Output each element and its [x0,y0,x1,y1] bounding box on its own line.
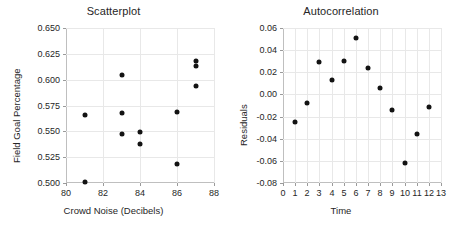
data-point [305,101,310,106]
x-tick-label: 5 [341,188,346,198]
y-tick-mark [63,131,66,132]
y-tick-label: 0.04 [259,45,277,55]
x-tick-label: 13 [436,188,446,198]
data-point [119,72,124,77]
gridline-vertical [295,28,296,183]
scatterplot-x-axis-title: Crowd Noise (Decibels) [0,205,227,216]
x-tick-mark [392,183,393,186]
scatterplot-y-axis-title: Field Goal Percentage [11,68,22,163]
scatterplot-title: Scatterplot [0,5,227,17]
x-tick-label: 7 [365,188,370,198]
x-tick-mark [356,183,357,186]
y-tick-mark [280,72,283,73]
autocorrelation-x-axis-title: Time [227,205,455,216]
y-tick-label: 0.06 [259,23,277,33]
y-tick-label: 0.575 [37,101,60,111]
x-tick-mark [214,183,215,186]
y-tick-label: 0.00 [259,89,277,99]
x-tick-label: 1 [292,188,297,198]
gridline-vertical [344,28,345,183]
scatterplot-panel: Scatterplot 0.5000.5250.5500.5750.6000.6… [0,0,227,227]
y-tick-label: 0.600 [37,75,60,85]
x-tick-label: 4 [329,188,334,198]
y-tick-mark [280,161,283,162]
x-tick-label: 12 [424,188,434,198]
x-tick-mark [344,183,345,186]
autocorrelation-y-axis-title: Residuals [238,104,249,146]
x-tick-label: 6 [353,188,358,198]
data-point [175,109,180,114]
gridline-vertical [332,28,333,183]
y-tick-label: 0.02 [259,67,277,77]
x-tick-label: 2 [304,188,309,198]
gridline-vertical [417,28,418,183]
x-tick-mark [380,183,381,186]
gridline-vertical [380,28,381,183]
data-point [317,60,322,65]
x-tick-label: 8 [377,188,382,198]
autocorrelation-title: Autocorrelation [227,5,455,17]
x-tick-label: 82 [98,188,108,198]
x-tick-label: 86 [172,188,182,198]
y-tick-label: 0.550 [37,126,60,136]
x-tick-mark [441,183,442,186]
data-point [414,132,419,137]
data-point [119,132,124,137]
y-tick-mark [63,28,66,29]
data-point [366,65,371,70]
x-tick-mark [103,183,104,186]
data-point [426,104,431,109]
y-tick-label: 0.525 [37,152,60,162]
x-tick-label: 0 [280,188,285,198]
x-tick-mark [417,183,418,186]
x-tick-mark [66,183,67,186]
gridline-vertical [103,28,104,183]
gridline-vertical [319,28,320,183]
x-tick-mark [368,183,369,186]
data-point [402,161,407,166]
x-tick-mark [140,183,141,186]
x-tick-label: 9 [389,188,394,198]
data-point [175,162,180,167]
x-tick-mark [307,183,308,186]
y-tick-label: -0.06 [256,156,277,166]
gridline-vertical [214,28,215,183]
y-tick-mark [63,54,66,55]
data-point [82,112,87,117]
data-point [390,107,395,112]
x-tick-label: 3 [316,188,321,198]
data-point [341,59,346,64]
gridline-vertical [356,28,357,183]
data-point [138,141,143,146]
x-tick-mark [283,183,284,186]
x-tick-label: 88 [209,188,219,198]
y-tick-label: 0.650 [37,23,60,33]
y-tick-mark [280,117,283,118]
gridline-vertical [140,28,141,183]
x-tick-label: 11 [412,188,421,198]
data-point [353,35,358,40]
gridline-vertical [392,28,393,183]
x-tick-mark [429,183,430,186]
y-tick-mark [280,139,283,140]
y-tick-label: -0.02 [256,112,277,122]
x-tick-mark [332,183,333,186]
data-point [119,110,124,115]
x-tick-mark [177,183,178,186]
y-tick-label: 0.625 [37,49,60,59]
gridline-vertical [177,28,178,183]
y-tick-mark [280,94,283,95]
data-point [193,83,198,88]
scatterplot-plot-area: 0.5000.5250.5500.5750.6000.6250.65080828… [66,28,214,183]
x-tick-label: 10 [400,188,410,198]
y-tick-label: -0.04 [256,134,277,144]
y-tick-mark [63,80,66,81]
data-point [293,120,298,125]
autocorrelation-plot-area: -0.08-0.06-0.04-0.020.000.020.040.060123… [283,28,441,183]
y-tick-label: -0.08 [256,178,277,188]
autocorrelation-panel: Autocorrelation -0.08-0.06-0.04-0.020.00… [227,0,455,227]
y-tick-label: 0.500 [37,178,60,188]
x-tick-mark [295,183,296,186]
data-point [82,179,87,184]
y-tick-mark [280,50,283,51]
